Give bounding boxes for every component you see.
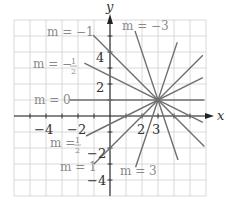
y-tick-label: −2 — [87, 146, 106, 161]
y-tick-label: 2 — [96, 80, 104, 95]
label-m-neg3: m = −3 — [122, 19, 169, 33]
x-tick-label: −4 — [34, 122, 53, 137]
y-tick-label: −4 — [87, 173, 106, 188]
label-m-half-den: 2 — [75, 146, 80, 155]
x-tick-label: 2 — [137, 122, 145, 137]
label-m-one: m = 1 — [60, 160, 97, 174]
x-axis-arrow-icon — [205, 113, 214, 119]
label-m-half: m = — [50, 136, 75, 150]
x-axis-label: x — [217, 108, 225, 123]
y-axis-arrow-icon — [107, 14, 113, 24]
slope-line — [135, 31, 178, 160]
label-m-neghalf-den: 2 — [71, 67, 76, 76]
label-m-neg1: m = −1 — [47, 25, 94, 39]
x-tick-label: −2 — [67, 122, 86, 137]
label-m-zero: m = 0 — [34, 93, 71, 107]
slope-lines-chart: xy −4−22342−2−4 m = −1m = −3m = −12m = 0… — [0, 0, 226, 218]
x-tick-label: 3 — [152, 122, 160, 137]
y-axis-label: y — [105, 0, 114, 14]
label-m-three: m = 3 — [120, 164, 157, 178]
y-tick-label: 4 — [96, 50, 104, 65]
label-m-half-num: 1 — [75, 136, 80, 145]
label-m-neghalf: m = − — [33, 57, 72, 71]
label-m-neghalf-num: 1 — [71, 57, 76, 66]
